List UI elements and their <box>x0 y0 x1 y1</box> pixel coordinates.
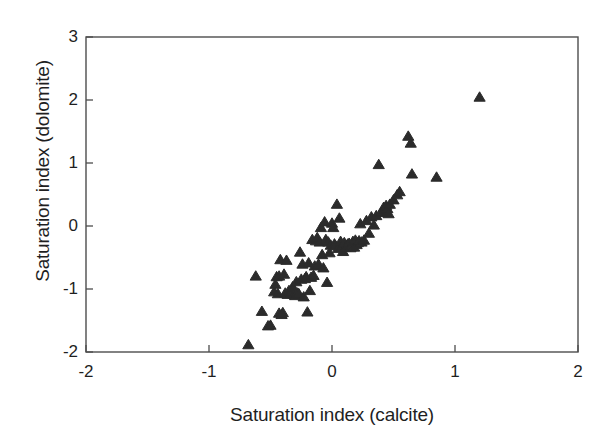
x-tick-label: 2 <box>558 362 598 382</box>
x-tick-label: -1 <box>189 362 229 382</box>
y-tick-label: 3 <box>44 27 78 47</box>
y-tick-label: 1 <box>44 153 78 173</box>
data-point-marker <box>256 306 267 315</box>
y-tick-label: 2 <box>44 90 78 110</box>
data-point-marker <box>406 169 417 178</box>
data-point-marker <box>304 285 315 294</box>
scatter-plot-figure: Saturation index (dolomite) Saturation i… <box>0 0 604 440</box>
x-tick-label: 0 <box>312 362 352 382</box>
data-point-marker <box>243 339 254 348</box>
data-point-marker <box>474 92 485 101</box>
data-point-marker <box>331 199 342 208</box>
plot-frame <box>86 37 578 352</box>
data-point-marker <box>403 131 414 140</box>
data-point-marker <box>321 277 332 286</box>
y-tick-label: -2 <box>44 342 78 362</box>
data-point-marker <box>431 172 442 181</box>
x-tick-label: 1 <box>435 362 475 382</box>
x-axis-label: Saturation index (calcite) <box>86 404 578 426</box>
data-point-marker <box>334 213 345 222</box>
series-samples <box>243 92 485 349</box>
data-point-marker <box>373 159 384 168</box>
data-point-marker <box>302 307 313 316</box>
y-tick-label: 0 <box>44 216 78 236</box>
data-point-marker <box>294 247 305 256</box>
x-axis-tick-labels: -2-1012 <box>0 362 604 388</box>
x-tick-label: -2 <box>66 362 106 382</box>
data-point-marker <box>250 271 261 280</box>
y-tick-label: -1 <box>44 279 78 299</box>
